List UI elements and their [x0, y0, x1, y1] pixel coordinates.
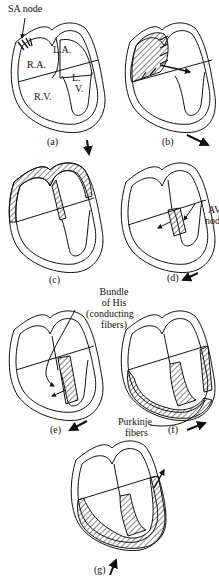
- lv-label-1: L.: [72, 73, 81, 83]
- panel-b-heart: [125, 23, 215, 133]
- av-node-label-2: node: [205, 216, 219, 226]
- sa-node-label: SA node: [8, 4, 42, 14]
- caption-g: (g): [94, 565, 106, 575]
- bundle-label-3: (conducting: [76, 309, 144, 319]
- arrow-b-icon: [187, 135, 208, 145]
- ra-label: R.A.: [27, 60, 46, 70]
- bundle-label-2: of His: [86, 298, 142, 308]
- bundle-label-4: fibers): [86, 320, 142, 330]
- caption-c: (c): [49, 275, 60, 285]
- arrow-a-icon: [87, 140, 89, 154]
- caption-a: (a): [47, 137, 58, 147]
- purkinje-label-1: Purkinje: [118, 417, 152, 427]
- caption-b: (b): [162, 137, 174, 147]
- la-label: L.A.: [53, 45, 71, 55]
- arrow-f-icon: [187, 423, 205, 430]
- lv-label-2: V.: [75, 84, 83, 94]
- panel-a-heart: [11, 18, 105, 133]
- caption-e: (e): [50, 425, 61, 435]
- purkinje-label-2: fibers: [125, 428, 148, 438]
- caption-f: (f): [168, 425, 178, 435]
- bundle-label-1: Bundle: [86, 287, 142, 297]
- panel-d-heart: [121, 163, 215, 273]
- arrow-e-icon: [70, 421, 87, 430]
- rv-label: R.V.: [34, 92, 52, 102]
- panel-c-heart: [9, 163, 103, 273]
- caption-d: (d): [167, 273, 179, 283]
- panel-g-heart: [71, 441, 166, 551]
- av-node-label-1: AV: [208, 205, 219, 215]
- arrow-d-icon: [183, 273, 198, 280]
- arrow-g-icon: [110, 560, 116, 575]
